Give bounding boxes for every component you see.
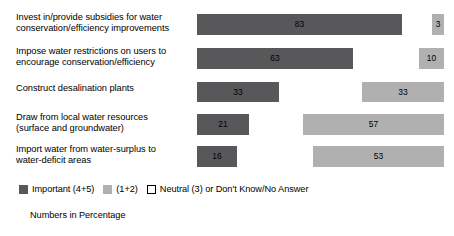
bar-low: 10 — [419, 48, 444, 69]
bar-value-low: 53 — [374, 151, 383, 161]
bar-important: 16 — [197, 146, 237, 167]
bar-value-important: 83 — [295, 19, 304, 29]
survey-bar-chart: Invest in/provide subsidies for water co… — [0, 0, 454, 236]
bar-value-low: 3 — [436, 19, 441, 29]
bar-value-low: 57 — [369, 119, 378, 129]
bar-important: 33 — [197, 82, 279, 102]
row-label-line: Construct desalination plants — [16, 83, 192, 94]
row-label-line: Draw from local water resources — [16, 112, 192, 123]
row-label-line: water-deficit areas — [16, 155, 192, 166]
chart-row: Draw from local water resources (surface… — [0, 112, 454, 144]
bar-track: 63 10 — [197, 48, 444, 69]
row-label: Import water from water-surplus to water… — [16, 144, 192, 167]
row-label: Invest in/provide subsidies for water co… — [16, 12, 192, 35]
row-label: Impose water restrictions on users to en… — [16, 46, 192, 69]
bar-important: 21 — [197, 114, 249, 135]
bar-low: 3 — [432, 14, 444, 35]
bar-important: 83 — [197, 14, 402, 35]
chart-row: Impose water restrictions on users to en… — [0, 46, 454, 78]
chart-row: Import water from water-surplus to water… — [0, 144, 454, 176]
legend-label-neutral: Neutral (3) or Don't Know/No Answer — [160, 184, 309, 194]
bar-value-low: 10 — [427, 53, 436, 63]
legend-item-important: Important (4+5) — [19, 184, 94, 194]
bar-value-low: 33 — [398, 87, 407, 97]
bar-value-important: 21 — [218, 119, 227, 129]
bar-track: 16 53 — [197, 146, 444, 167]
bar-track: 21 57 — [197, 114, 444, 135]
legend-swatch-important-icon — [19, 185, 28, 194]
legend-swatch-low-icon — [103, 185, 112, 194]
chart-row: Invest in/provide subsidies for water co… — [0, 12, 454, 44]
bar-track: 33 33 — [197, 82, 444, 102]
row-label-line: encourage conservation/efficiency — [16, 57, 192, 68]
row-label-line: Import water from water-surplus to — [16, 144, 192, 155]
row-label: Construct desalination plants — [16, 83, 192, 94]
bar-track: 83 3 — [197, 14, 444, 35]
legend-label-important: Important (4+5) — [32, 184, 94, 194]
row-label: Draw from local water resources (surface… — [16, 112, 192, 135]
row-label-line: Invest in/provide subsidies for water — [16, 12, 192, 23]
legend-item-neutral: Neutral (3) or Don't Know/No Answer — [147, 184, 309, 194]
bar-value-important: 33 — [233, 87, 242, 97]
legend-item-low: (1+2) — [103, 184, 137, 194]
bar-low: 53 — [313, 146, 444, 167]
row-label-line: conservation/efficiency improvements — [16, 23, 192, 34]
bar-low: 33 — [362, 82, 444, 102]
row-label-line: Impose water restrictions on users to — [16, 46, 192, 57]
chart-row: Construct desalination plants 33 33 — [0, 80, 454, 106]
bar-value-important: 16 — [212, 151, 221, 161]
chart-legend: Important (4+5) (1+2) Neutral (3) or Don… — [19, 184, 308, 194]
bar-low: 57 — [303, 114, 444, 135]
row-label-line: (surface and groundwater) — [16, 123, 192, 134]
bar-value-important: 63 — [270, 53, 279, 63]
bar-important: 63 — [197, 48, 353, 69]
legend-label-low: (1+2) — [116, 184, 137, 194]
legend-swatch-neutral-icon — [147, 185, 156, 194]
chart-footnote: Numbers in Percentage — [30, 210, 125, 220]
